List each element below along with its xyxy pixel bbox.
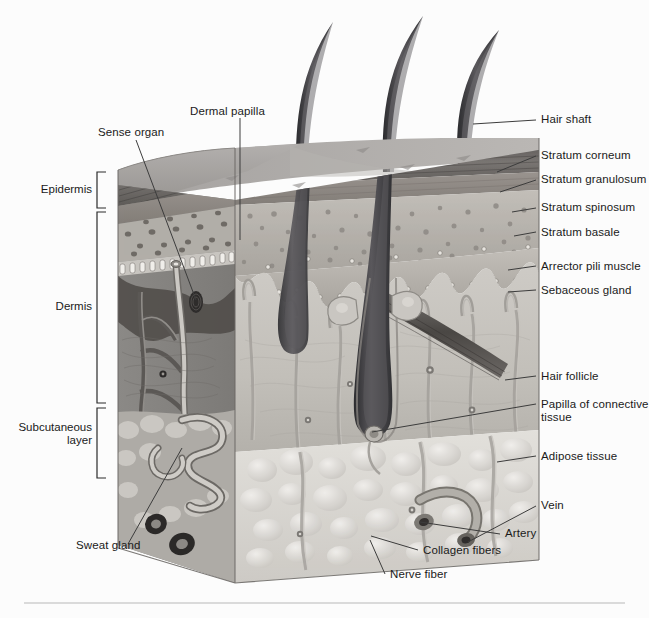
left-cut-face — [116, 150, 235, 583]
label-hair-follicle: Hair follicle — [541, 370, 599, 383]
bracket-label-subcutaneous-line1: Subcutaneous — [6, 421, 92, 434]
label-vein: Vein — [541, 499, 564, 512]
label-adipose-tissue: Adipose tissue — [541, 450, 617, 463]
label-sebaceous-gland: Sebaceous gland — [541, 284, 631, 297]
skin-illustration — [0, 0, 649, 618]
label-hair-shaft: Hair shaft — [541, 113, 591, 126]
sense-organ-body — [189, 291, 203, 313]
label-papilla-of-connective-tissue: Papilla of connective tissue — [541, 398, 649, 424]
skin-diagram-figure: Epidermis Dermis Subcutaneous layer Derm… — [0, 0, 649, 618]
label-stratum-basale: Stratum basale — [541, 226, 620, 239]
label-stratum-granulosum: Stratum granulosum — [541, 173, 646, 186]
bracket-label-dermis: Dermis — [14, 300, 92, 313]
label-sweat-gland: Sweat gland — [76, 539, 140, 552]
label-sense-organ: Sense organ — [98, 126, 164, 139]
bracket-label-subcutaneous-line2: layer — [6, 434, 92, 447]
label-dermal-papilla: Dermal papilla — [190, 105, 265, 118]
label-arrector-pili-muscle: Arrector pili muscle — [541, 260, 641, 273]
label-stratum-spinosum: Stratum spinosum — [541, 201, 635, 214]
label-artery: Artery — [505, 527, 536, 540]
bracket-label-epidermis: Epidermis — [14, 183, 92, 196]
label-stratum-corneum: Stratum corneum — [541, 149, 631, 162]
label-nerve-fiber: Nerve fiber — [390, 568, 447, 581]
bracket-label-subcutaneous-layer: Subcutaneous layer — [6, 421, 92, 447]
subcutaneous-fat-front — [235, 430, 539, 583]
label-collagen-fibers: Collagen fibers — [423, 544, 501, 557]
